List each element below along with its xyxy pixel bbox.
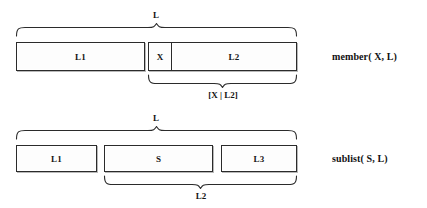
sublist-predicate-label: sublist( S, L)	[332, 154, 388, 164]
sublist-bottom-brace	[103, 175, 299, 189]
member-box-l2: L2	[171, 42, 297, 71]
sublist-bottom-brace-label: L2	[196, 192, 207, 201]
member-box-x-label: X	[149, 52, 171, 61]
member-box-l1-label: L1	[17, 52, 144, 61]
sublist-box-s-label: S	[105, 154, 212, 163]
sublist-top-brace	[15, 126, 298, 140]
sublist-box-l1-label: L1	[17, 154, 96, 163]
sublist-top-brace-label: L	[153, 114, 159, 123]
member-top-brace-label: L	[153, 11, 159, 20]
member-bottom-brace	[147, 74, 299, 88]
member-box-x: X	[148, 42, 172, 71]
sublist-box-l1: L1	[16, 145, 97, 172]
member-predicate-label: member( X, L)	[332, 52, 397, 62]
sublist-box-l3-label: L3	[222, 154, 296, 163]
sublist-box-l3: L3	[221, 145, 297, 172]
diagram-canvas: L L1 X L2 [X | L2] member( X, L) L L1	[0, 0, 427, 208]
sublist-box-s: S	[104, 145, 213, 172]
member-box-l2-label: L2	[172, 52, 296, 61]
member-box-l1: L1	[16, 42, 145, 71]
member-top-brace	[15, 23, 298, 37]
member-bottom-brace-label: [X | L2]	[208, 91, 237, 100]
